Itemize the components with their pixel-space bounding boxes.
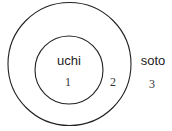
region-number-2: 2 [110, 75, 116, 89]
region-number-3: 3 [149, 77, 155, 91]
region-number-1: 1 [65, 75, 71, 89]
outer-label: soto [141, 53, 166, 68]
inner-label: uchi [57, 53, 81, 68]
inner-circle [35, 36, 103, 104]
uchi-soto-diagram: uchi soto 1 2 3 [0, 0, 172, 131]
